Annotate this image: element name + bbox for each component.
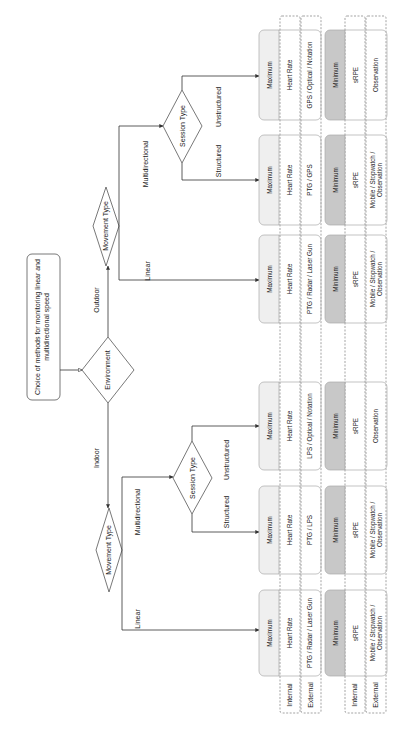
max-internal-lane xyxy=(280,16,300,713)
minimum-internal-value: sRPE xyxy=(352,625,359,641)
indoor-movement-type-decision: Movement Type xyxy=(96,508,122,592)
minimum-external-value: Mobile / Stopwatch /Observation xyxy=(369,250,383,307)
maximum-internal-value: Heart Rate xyxy=(286,617,293,648)
minimum-label: Minimum xyxy=(332,620,339,646)
edge-label-indoor-multidirectional: Multidirectional xyxy=(134,488,141,535)
edge-label-indoor-unstructured: Unstructured xyxy=(223,440,230,480)
edge-label-indoor-linear: Linear xyxy=(134,609,141,629)
maximum-label: Maximum xyxy=(266,265,273,292)
outdoor-multidirectional-structured-maximum-box: MaximumHeart RatePTG / GPS xyxy=(259,135,321,225)
outdoor-linear-maximum-box: MaximumHeart RatePTG / Radar / Laser Gun xyxy=(259,235,321,323)
title-box: Choice of methods for monitoring linear … xyxy=(27,254,60,400)
minimum-external-value: Mobile / Stopwatch /Observation xyxy=(369,501,383,558)
edge-label-indoor-structured: Structured xyxy=(223,496,230,528)
maximum-external-value: PTG / Radar / Laser Gun xyxy=(306,244,313,314)
title-line-2: multidirectional speed xyxy=(43,293,51,361)
minimum-external-value: Mobile / Stopwatch /Observation xyxy=(369,604,383,661)
title-line-1: Choice of methods for monitoring linear … xyxy=(34,259,42,395)
environment-decision: Environment xyxy=(82,337,134,403)
maximum-external-value: PTG / GPS xyxy=(306,164,313,196)
outcome-boxes: MaximumHeart RateGPS / Optical / Notatio… xyxy=(259,30,387,676)
outdoor-session-type-decision: Session Type xyxy=(163,90,202,163)
indoor-linear-minimum-box: MinimumsRPEMobile / Stopwatch /Observati… xyxy=(325,590,387,676)
indoor-multidirectional-unstructured-maximum-box: MaximumHeart RateLPS / Optical / Notatio… xyxy=(259,382,321,470)
maximum-label: Maximum xyxy=(266,61,273,88)
edge-outdoor-linear xyxy=(119,226,259,280)
minimum-internal-value: sRPE xyxy=(352,271,359,287)
edge-indoor-linear xyxy=(122,550,259,630)
maximum-internal-value: Heart Rate xyxy=(286,514,293,545)
maximum-label: Maximum xyxy=(266,619,273,646)
outdoor-multidirectional-unstructured-minimum-box: MinimumsRPEObservation xyxy=(325,30,387,120)
outdoor-session-type-label: Session Type xyxy=(179,105,187,147)
outdoor-multidirectional-structured-minimum-box: MinimumsRPEMobile / Stopwatch /Observati… xyxy=(325,135,387,225)
edge-label-indoor: Indoor xyxy=(93,447,100,468)
maximum-external-value: LPS / Optical / Notation xyxy=(306,393,314,459)
flowchart: Choice of methods for monitoring linear … xyxy=(0,0,399,734)
outdoor-movement-type-decision: Movement Type xyxy=(93,187,119,266)
minimum-external-value: Observation xyxy=(372,58,379,92)
indoor-linear-maximum-box: MaximumHeart RatePTG / Radar / Laser Gun xyxy=(259,590,321,676)
minimum-external-value: Observation xyxy=(372,409,379,443)
maximum-external-value: PTG / LPS xyxy=(306,515,313,545)
outdoor-multidirectional-unstructured-maximum-box: MaximumHeart RateGPS / Optical / Notatio… xyxy=(259,30,321,120)
min-external-row-label: External xyxy=(372,682,379,708)
minimum-label: Minimum xyxy=(332,167,339,193)
maximum-external-value: GPS / Optical / Notation xyxy=(306,41,314,108)
max-external-row-label: External xyxy=(307,682,314,708)
maximum-internal-value: Heart Rate xyxy=(286,164,293,195)
edge-indoor-multidirectional xyxy=(122,477,173,550)
min-internal-lane xyxy=(345,16,365,713)
minimum-label: Minimum xyxy=(332,266,339,292)
indoor-session-type-decision: Session Type xyxy=(173,441,212,514)
minimum-label: Minimum xyxy=(332,517,339,543)
maximum-label: Maximum xyxy=(266,412,273,439)
edge-label-outdoor: Outdoor xyxy=(93,287,100,313)
minimum-external-value: Mobile / Stopwatch /Observation xyxy=(369,151,383,208)
edge-label-outdoor-unstructured: Unstructured xyxy=(215,87,222,127)
outdoor-movement-type-label: Movement Type xyxy=(102,201,110,251)
minimum-label: Minimum xyxy=(332,62,339,88)
outdoor-linear-minimum-box: MinimumsRPEMobile / Stopwatch /Observati… xyxy=(325,235,387,323)
indoor-movement-type-label: Movement Type xyxy=(105,525,113,575)
minimum-internal-value: sRPE xyxy=(352,522,359,538)
minimum-internal-value: sRPE xyxy=(352,67,359,83)
maximum-label: Maximum xyxy=(266,516,273,543)
indoor-session-type-label: Session Type xyxy=(189,457,197,499)
minimum-label: Minimum xyxy=(332,413,339,439)
minimum-internal-value: sRPE xyxy=(352,418,359,434)
edge-label-outdoor-structured: Structured xyxy=(215,145,222,177)
edge-label-outdoor-linear: Linear xyxy=(144,261,151,281)
maximum-external-value: PTG / Radar / Laser Gun xyxy=(306,598,313,668)
indoor-multidirectional-structured-maximum-box: MaximumHeart RatePTG / LPS xyxy=(259,486,321,574)
maximum-internal-value: Heart Rate xyxy=(286,59,293,90)
indoor-multidirectional-structured-minimum-box: MinimumsRPEMobile / Stopwatch /Observati… xyxy=(325,486,387,574)
maximum-internal-value: Heart Rate xyxy=(286,263,293,294)
edge-label-outdoor-multidirectional: Multidirectional xyxy=(142,140,149,187)
min-internal-row-label: Internal xyxy=(351,683,358,707)
maximum-label: Maximum xyxy=(266,166,273,193)
maximum-internal-value: Heart Rate xyxy=(286,410,293,441)
max-internal-row-label: Internal xyxy=(286,683,293,707)
indoor-multidirectional-unstructured-minimum-box: MinimumsRPEObservation xyxy=(325,382,387,470)
environment-label: Environment xyxy=(104,350,111,389)
edge-indoor-unstructured xyxy=(192,426,259,441)
minimum-internal-value: sRPE xyxy=(352,172,359,188)
edge-outdoor-multidirectional xyxy=(119,126,163,226)
